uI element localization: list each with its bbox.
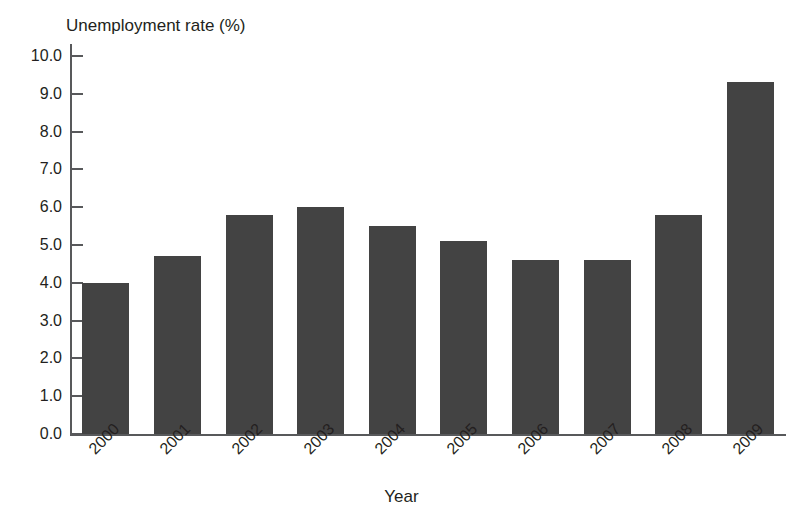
y-axis-tick-label: 1.0 — [40, 388, 62, 404]
y-axis-tick-label: 9.0 — [40, 86, 62, 102]
y-axis-tick — [72, 244, 83, 246]
y-axis-tick-label: 8.0 — [40, 124, 62, 140]
y-axis-tick — [72, 206, 83, 208]
bar — [226, 215, 273, 434]
y-axis-tick-label-group: 10.09.08.07.06.05.04.03.02.01.00.0 — [0, 44, 62, 436]
bar — [727, 82, 774, 434]
y-axis-tick — [72, 168, 83, 170]
y-axis-tick-label: 5.0 — [40, 237, 62, 253]
bar — [369, 226, 416, 434]
y-axis-line — [70, 44, 72, 436]
plot-area — [70, 44, 786, 436]
y-axis-tick-label: 7.0 — [40, 161, 62, 177]
y-axis-tick — [72, 55, 83, 57]
y-axis-tick-label: 2.0 — [40, 350, 62, 366]
y-axis-tick-label: 3.0 — [40, 313, 62, 329]
bar — [584, 260, 631, 434]
y-axis-title: Unemployment rate (%) — [66, 16, 246, 36]
bar — [82, 283, 129, 434]
bar-chart: Unemployment rate (%) 10.09.08.07.06.05.… — [0, 0, 803, 528]
y-axis-tick-label: 0.0 — [40, 426, 62, 442]
bar — [154, 256, 201, 434]
bar — [440, 241, 487, 434]
y-axis-tick — [72, 131, 83, 133]
y-axis-tick-label: 6.0 — [40, 199, 62, 215]
y-axis-tick-label: 4.0 — [40, 275, 62, 291]
bar — [512, 260, 559, 434]
x-axis-title: Year — [0, 487, 803, 507]
bar — [655, 215, 702, 434]
y-axis-tick-label: 10.0 — [31, 48, 62, 64]
bar — [297, 207, 344, 434]
y-axis-tick — [72, 93, 83, 95]
